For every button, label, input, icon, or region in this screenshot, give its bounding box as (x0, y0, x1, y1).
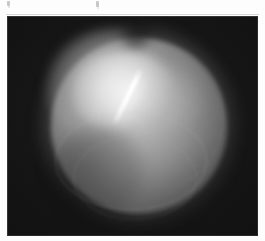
scan-artifact-icon (97, 7, 99, 9)
divider-rule (6, 14, 259, 15)
scan-artifact-icon (8, 6, 10, 8)
film-grain (7, 16, 258, 236)
figure-caption (7, 237, 258, 241)
retroillumination-photograph (7, 16, 258, 236)
scanned-page (0, 0, 265, 241)
